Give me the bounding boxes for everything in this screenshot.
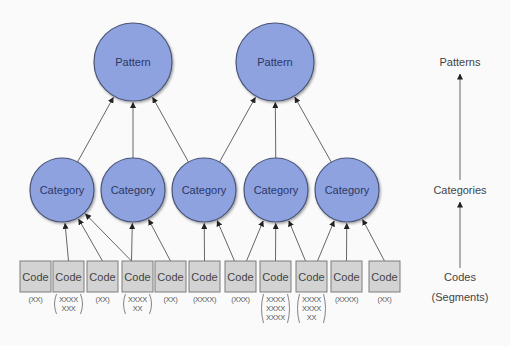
segment-bracket-left <box>124 294 126 314</box>
segment-text: (XXXX) <box>193 295 217 304</box>
coding-hierarchy-diagram: PatternPattern CategoryCategoryCategoryC… <box>0 0 510 346</box>
segment-bracket-right <box>288 294 290 323</box>
code-node: CodeXXXXXXXXXX <box>296 261 327 323</box>
segment-text: (XXXX) <box>335 295 359 304</box>
segment-bracket-left <box>298 294 300 323</box>
pattern-label: Pattern <box>115 56 150 68</box>
edge-code-3-to-category-1 <box>79 219 103 261</box>
pattern-node: Pattern <box>236 23 314 101</box>
segment-text: XXXX <box>59 295 78 304</box>
code-node: Code(XXX) <box>225 261 256 304</box>
edge-category-3-to-pattern-1 <box>153 97 189 162</box>
edge-code-9-to-category-4 <box>289 221 306 261</box>
level-legend: Patterns Categories Codes (Segments) <box>432 56 489 303</box>
segment-text: XXXX <box>266 313 285 322</box>
code-node: Code(XX) <box>87 261 118 304</box>
pattern-label: Pattern <box>257 56 292 68</box>
segment-text: XXXX <box>302 304 321 313</box>
edge-category-5-to-pattern-2 <box>295 97 331 162</box>
segment-bracket-left <box>262 294 264 323</box>
segment-text: XXX <box>61 304 75 313</box>
segment-text: XXXX <box>266 295 285 304</box>
code-node: Code(XX) <box>155 261 186 304</box>
segment-text: XXXX <box>302 295 321 304</box>
code-label: Code <box>124 271 150 283</box>
code-node: Code(XX) <box>369 261 400 304</box>
segment-text: XXXX <box>266 304 285 313</box>
segment-text: (XX) <box>96 295 111 304</box>
category-node: Category <box>101 158 165 222</box>
code-label: Code <box>22 271 48 283</box>
category-label: Category <box>111 184 156 196</box>
segment-bracket-right <box>150 294 152 314</box>
code-label: Code <box>89 271 115 283</box>
codes-layer: Code(XX)CodeXXXXXXXCode(XX)CodeXXXXXXCod… <box>20 261 400 323</box>
code-node: CodeXXXXXXXXXXXX <box>260 261 291 323</box>
segment-bracket-right <box>81 294 83 314</box>
code-label: Code <box>262 271 288 283</box>
code-node: CodeXXXXXX <box>122 261 153 314</box>
code-label: Code <box>371 271 397 283</box>
code-node: Code(XXXX) <box>331 261 362 304</box>
segment-text: XX <box>133 304 143 313</box>
category-node: Category <box>30 158 94 222</box>
pattern-node: Pattern <box>94 23 172 101</box>
code-label: Code <box>298 271 324 283</box>
level-label-segments: (Segments) <box>432 291 489 303</box>
code-label: Code <box>157 271 183 283</box>
segment-text: (XX) <box>29 295 44 304</box>
edge-code-4-to-category-2 <box>132 223 133 261</box>
patterns-layer: PatternPattern <box>94 23 314 101</box>
segment-text: (XXX) <box>231 295 250 304</box>
code-label: Code <box>333 271 359 283</box>
edge-category-3-to-pattern-2 <box>220 97 256 162</box>
category-node: Category <box>172 158 236 222</box>
edge-code-7-to-category-3 <box>217 221 234 261</box>
segment-bracket-left <box>55 294 57 314</box>
level-label-codes: Codes <box>444 271 476 283</box>
code-label: Code <box>55 271 81 283</box>
edge-code-7-to-category-4 <box>247 221 264 261</box>
code-node: Code(XX) <box>20 261 51 304</box>
code-node: Code(XXXX) <box>189 261 220 304</box>
edge-code-9-to-category-5 <box>318 221 335 261</box>
code-label: Code <box>191 271 217 283</box>
category-node: Category <box>244 158 308 222</box>
categories-layer: CategoryCategoryCategoryCategoryCategory <box>30 158 379 222</box>
segment-bracket-right <box>324 294 326 323</box>
edge-code-5-to-category-2 <box>149 220 171 261</box>
category-label: Category <box>182 184 227 196</box>
category-label: Category <box>325 184 370 196</box>
category-label: Category <box>40 184 85 196</box>
edge-code-2-to-category-1 <box>65 223 68 261</box>
level-label-categories: Categories <box>433 184 487 196</box>
edge-code-11-to-category-5 <box>363 220 385 261</box>
edge-category-1-to-pattern-1 <box>78 97 114 162</box>
code-label: Code <box>227 271 253 283</box>
category-label: Category <box>254 184 299 196</box>
segment-text: (XX) <box>164 295 179 304</box>
segment-text: (XX) <box>378 295 393 304</box>
code-node: CodeXXXXXXX <box>53 261 84 314</box>
level-label-patterns: Patterns <box>440 56 481 68</box>
category-node: Category <box>315 158 379 222</box>
segment-text: XXXX <box>128 295 147 304</box>
segment-text: XX <box>307 313 317 322</box>
